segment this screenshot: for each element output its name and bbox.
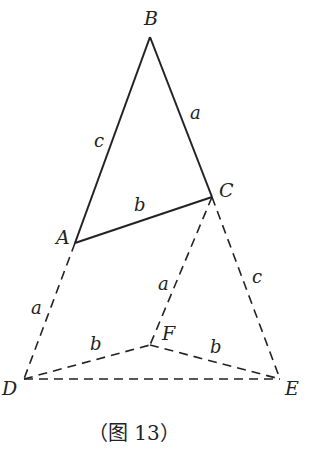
side-label-AC: b: [134, 194, 146, 215]
side-label-AD: a: [31, 297, 42, 318]
segment-CF: [150, 197, 212, 345]
side-label-CF: a: [158, 273, 169, 294]
point-label-C: C: [219, 179, 234, 201]
point-label-E: E: [284, 377, 299, 399]
segment-BC: [150, 37, 212, 197]
side-label-AB: c: [94, 130, 104, 151]
segment-CE: [212, 197, 280, 379]
side-label-DF: b: [90, 333, 102, 354]
geometry-diagram: B C A F D E c a b a a c b b （图 13）: [0, 0, 312, 450]
point-label-D: D: [1, 377, 17, 399]
side-label-BC: a: [190, 102, 201, 123]
segment-DF: [24, 345, 150, 379]
side-label-FE: b: [210, 336, 222, 357]
point-label-F: F: [161, 322, 176, 344]
side-label-CE: c: [252, 266, 262, 287]
point-label-B: B: [143, 7, 158, 29]
point-label-A: A: [54, 226, 70, 248]
figure-caption: （图 13）: [88, 421, 180, 445]
